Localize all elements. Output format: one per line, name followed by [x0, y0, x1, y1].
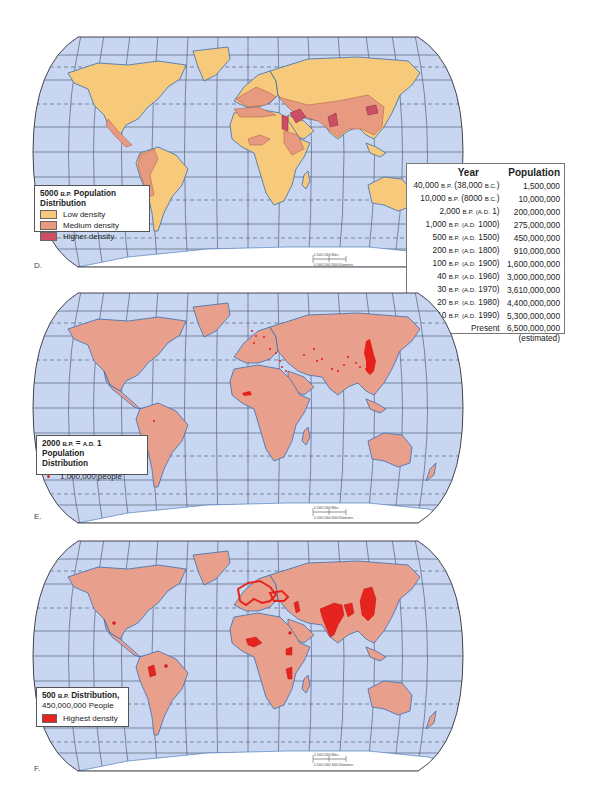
- table-footnote: (estimated): [506, 334, 560, 342]
- swatch-highest-density: [42, 714, 57, 723]
- svg-text:0 1000 2000 Miles: 0 1000 2000 Miles: [314, 753, 339, 757]
- table-row: 200 B.P. (A.D. 1800) 910,000,000: [411, 244, 560, 257]
- swatch-low-density: [40, 210, 57, 219]
- svg-text:0 1000 2000 3000 Kilometers: 0 1000 2000 3000 Kilometers: [314, 516, 354, 520]
- header-population: Population: [506, 167, 560, 179]
- scale-miles-label: 0 1000 2000 Miles: [314, 253, 339, 257]
- swatch-medium-density: [40, 221, 57, 230]
- table-row: 500 B.P. (A.D. 1500) 450,000,000: [411, 231, 560, 244]
- dot-icon: [47, 475, 50, 478]
- legend-panel-d: 5000 B.P. Population Distribution Low de…: [34, 185, 150, 232]
- legend-item-low-density: Low density: [40, 209, 144, 220]
- legend-title-line2: Distribution: [42, 459, 142, 469]
- scale-bar-d: 0 1000 2000 Miles 0 1000 2000 3000 Kilom…: [312, 252, 360, 269]
- legend-title: 500 B.P. Distribution,: [42, 691, 123, 701]
- legend-panel-e: 2000 B.P. = A.D. 1 Population Distributi…: [36, 435, 148, 475]
- panel-label-e: E.: [34, 512, 42, 521]
- scale-bar-f: 0 1000 2000 Miles 0 1000 2000 3000 Kilom…: [312, 752, 360, 769]
- table-row: 100 B.P. (A.D. 1900) 1,600,000,000: [411, 257, 560, 270]
- swatch-higher-density: [40, 232, 57, 241]
- legend-subtitle: 450,000,000 People: [42, 701, 123, 711]
- header-year: Year: [411, 167, 506, 179]
- table-row: 1,000 B.P. (A.D. 1000) 275,000,000: [411, 218, 560, 231]
- map-panel-e: [8, 291, 488, 531]
- legend-title: 2000 B.P. = A.D. 1 Population: [42, 439, 142, 459]
- svg-text:0 1000 2000 3000 Kilometers: 0 1000 2000 3000 Kilometers: [314, 763, 354, 767]
- legend-item-highest-density: Highest density: [42, 713, 123, 724]
- legend-title: 5000 B.P. Population Distribution: [40, 189, 144, 209]
- table-row: 40,000 B.P. (38,000 B.C.) 1,500,000: [411, 179, 560, 192]
- legend-panel-f: 500 B.P. Distribution, 450,000,000 Peopl…: [36, 687, 129, 727]
- scale-km-label: 0 1000 2000 3000 Kilometers: [314, 263, 354, 267]
- panel-label-d: D.: [34, 261, 42, 270]
- svg-text:0 1000 2000 Miles: 0 1000 2000 Miles: [314, 506, 339, 510]
- table-row: 40 B.P. (A.D. 1960) 3,000,000,000: [411, 270, 560, 283]
- scale-bar-e: 0 1000 2000 Miles 0 1000 2000 3000 Kilom…: [312, 505, 360, 522]
- table-row: 10,000 B.P. (8000 B.C.) 10,000,000: [411, 192, 560, 205]
- legend-item-medium-density: Medium density: [40, 220, 144, 231]
- table-row: 2,000 B.P. (A.D. 1) 200,000,000: [411, 205, 560, 218]
- map-panel-f: [8, 539, 488, 779]
- panel-label-f: F.: [34, 764, 40, 773]
- legend-item-higher-density: Higher density: [40, 231, 144, 242]
- legend-item-dot: 1,000,000 people: [42, 471, 142, 482]
